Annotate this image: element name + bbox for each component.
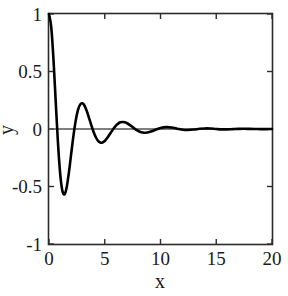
plot-background <box>0 0 288 296</box>
y-tick-label: 0.5 <box>18 61 42 82</box>
x-axis-title: x <box>155 270 165 292</box>
x-tick-label: 0 <box>44 248 54 269</box>
y-tick-label: 0 <box>33 119 43 140</box>
x-tick-label: 20 <box>263 248 282 269</box>
x-tick-label: 5 <box>100 248 110 269</box>
y-tick-label: 1 <box>33 4 43 25</box>
y-tick-label: -1 <box>26 234 42 255</box>
chart-figure: 05101520 -1-0.500.51 x y <box>0 0 288 296</box>
x-tick-label: 10 <box>151 248 170 269</box>
x-tick-label: 15 <box>207 248 226 269</box>
y-axis-title: y <box>0 125 18 135</box>
damped-oscillation-plot: 05101520 -1-0.500.51 x y <box>0 0 288 296</box>
y-tick-label: -0.5 <box>12 176 42 197</box>
